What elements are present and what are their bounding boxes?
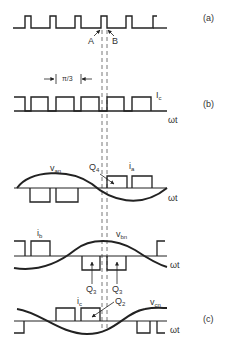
axis-label-phase-a: ωt bbox=[168, 194, 178, 203]
interval-label: π/3 bbox=[62, 75, 73, 82]
panel-label-a: (a) bbox=[203, 14, 214, 23]
phase-b-waveform bbox=[14, 241, 167, 284]
axis-label-b: ωt bbox=[168, 116, 178, 125]
phase-b-switch-label-1: Q3 bbox=[86, 285, 96, 295]
phase-c-switch-label: Q2 bbox=[115, 297, 125, 307]
axis-label-phase-c: ωt bbox=[170, 326, 180, 335]
phase-b-switch-label-2: Q3 bbox=[112, 285, 122, 295]
dc-current-label: Ic bbox=[156, 91, 162, 101]
panel-label-b: (b) bbox=[203, 100, 214, 109]
reference-dashed-lines bbox=[102, 30, 107, 330]
phase-c-voltage-label: vcn bbox=[150, 298, 161, 308]
gating-pulse-train bbox=[13, 16, 167, 28]
marker-arrows bbox=[94, 30, 114, 36]
phase-a-current-label: ia bbox=[129, 162, 134, 172]
phase-c-current-label: ic bbox=[77, 297, 82, 307]
phase-c-waveform bbox=[14, 302, 167, 334]
marker-label-a: A bbox=[88, 37, 94, 46]
phase-a-waveform bbox=[14, 173, 167, 202]
panel-label-c: (c) bbox=[203, 315, 214, 324]
phase-b-current-label: ib bbox=[37, 229, 42, 239]
dc-current-waveform bbox=[14, 97, 167, 111]
phase-a-voltage-label: van bbox=[50, 164, 61, 174]
phase-a-switch-label: Q4 bbox=[89, 163, 99, 173]
phase-b-voltage-label: vbn bbox=[116, 230, 127, 240]
marker-label-b: B bbox=[112, 37, 118, 46]
axis-label-phase-b: ωt bbox=[170, 261, 180, 270]
